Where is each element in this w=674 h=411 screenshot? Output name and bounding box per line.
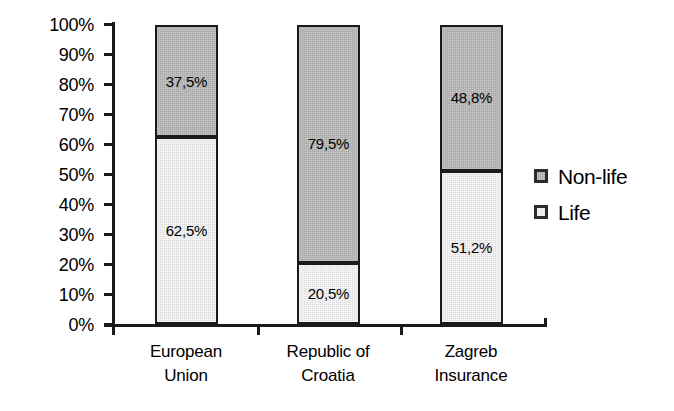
y-axis-tick-label: 60% (22, 136, 94, 154)
category-label-line: Union (106, 364, 266, 388)
y-axis-tick-label: 40% (22, 196, 94, 214)
y-axis-tick (104, 293, 112, 296)
x-axis-category-label-zagreb-insurance: Zagreb Insurance (391, 340, 551, 388)
legend-item-label: Life (558, 202, 590, 223)
stacked-bar-chart: 100% 90% 80% 70% 60% 50% 40% 30% 20% 10%… (0, 0, 674, 411)
x-axis-category-label-republic-of-croatia: Republic of Croatia (248, 340, 408, 388)
category-label-line: European (106, 340, 266, 364)
bar-segment-life[interactable]: 51,2% (440, 171, 503, 324)
legend-swatch-icon (534, 169, 548, 183)
category-label-line: Insurance (391, 364, 551, 388)
y-axis-tick (104, 53, 112, 56)
bar-segment-nonlife[interactable]: 37,5% (155, 25, 218, 137)
legend-swatch-icon (534, 205, 548, 219)
y-axis-tick-label: 100% (22, 16, 94, 34)
bar-segment-value: 37,5% (166, 74, 208, 89)
y-axis-tick-label: 70% (22, 106, 94, 124)
legend-item-nonlife[interactable]: Non-life (534, 158, 627, 194)
y-axis-tick-label: 80% (22, 76, 94, 94)
chart-legend: Non-life Life (534, 158, 627, 230)
y-axis-tick (104, 113, 112, 116)
bar-segment-value: 79,5% (308, 136, 350, 151)
y-axis-tick (104, 173, 112, 176)
bar-segment-life[interactable]: 20,5% (297, 263, 360, 324)
y-axis-tick (104, 233, 112, 236)
bar-segment-value: 20,5% (308, 286, 350, 301)
x-axis-tick (400, 326, 403, 335)
bar-segment-nonlife[interactable]: 79,5% (297, 25, 360, 263)
y-axis-tick (104, 203, 112, 206)
category-label-line: Republic of (248, 340, 408, 364)
bar-segment-value: 48,8% (451, 90, 493, 105)
y-axis-tick-label: 0% (22, 316, 94, 334)
y-axis-tick-label: 20% (22, 256, 94, 274)
y-axis-tick-label: 10% (22, 286, 94, 304)
category-label-line: Zagreb (391, 340, 551, 364)
bar-segment-life[interactable]: 62,5% (155, 137, 218, 324)
y-axis-tick (104, 143, 112, 146)
y-axis-tick (104, 23, 112, 26)
x-axis-category-label-european-union: European Union (106, 340, 266, 388)
x-axis-line (104, 324, 547, 327)
y-axis-tick-label: 30% (22, 226, 94, 244)
plot-area: 37,5% 62,5% 79,5% 20,5% 48,8% 51,2% (112, 25, 547, 324)
x-axis-tick (112, 326, 115, 335)
y-axis-tick-label: 90% (22, 46, 94, 64)
bar-group-republic-of-croatia: 79,5% 20,5% (297, 25, 360, 324)
y-axis-tick-label: 50% (22, 166, 94, 184)
y-axis-tick (104, 263, 112, 266)
bar-group-zagreb-insurance: 48,8% 51,2% (440, 25, 503, 324)
bar-segment-nonlife[interactable]: 48,8% (440, 25, 503, 171)
bar-group-european-union: 37,5% 62,5% (155, 25, 218, 324)
category-label-line: Croatia (248, 364, 408, 388)
legend-item-life[interactable]: Life (534, 194, 627, 230)
y-axis-tick (104, 83, 112, 86)
bar-segment-value: 51,2% (451, 240, 493, 255)
x-axis-tick (257, 326, 260, 335)
legend-item-label: Non-life (558, 166, 627, 187)
bar-segment-value: 62,5% (166, 223, 208, 238)
